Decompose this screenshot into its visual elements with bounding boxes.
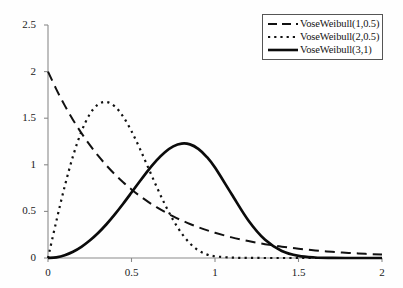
y-axis-ticks: [44, 25, 48, 258]
legend-item: VoseWeibull(2,0.5): [266, 30, 379, 43]
dashed-line-sample: [266, 18, 300, 30]
x-tick-label: 2: [365, 266, 399, 278]
y-tick-label: 2.5: [2, 18, 36, 30]
legend-label: VoseWeibull(3,1): [300, 44, 372, 55]
x-tick-label: 1: [198, 266, 232, 278]
chart-legend: VoseWeibull(1,0.5) VoseWeibull(2,0.5) Vo…: [262, 14, 383, 60]
legend-label: VoseWeibull(2,0.5): [300, 31, 379, 42]
y-tick-label: 1: [2, 158, 36, 170]
x-tick-label: 0: [31, 266, 65, 278]
solid-line-sample: [266, 44, 300, 56]
data-series-group: [48, 72, 382, 258]
y-tick-label: 2: [2, 65, 36, 77]
weibull-pdf-chart: 00.511.522.5 00.511.52 VoseWeibull(1,0.5…: [0, 0, 403, 288]
legend-item: VoseWeibull(1,0.5): [266, 17, 379, 30]
series-line-1: [48, 72, 382, 255]
legend-label: VoseWeibull(1,0.5): [300, 18, 379, 29]
legend-item: VoseWeibull(3,1): [266, 43, 379, 56]
series-line-3: [48, 143, 382, 258]
x-tick-label: 0.5: [115, 266, 149, 278]
y-tick-label: 1.5: [2, 111, 36, 123]
x-tick-label: 1.5: [282, 266, 316, 278]
dotted-line-sample: [266, 31, 300, 43]
y-tick-label: 0.5: [2, 204, 36, 216]
series-line-2: [48, 102, 349, 258]
y-tick-label: 0: [2, 251, 36, 263]
